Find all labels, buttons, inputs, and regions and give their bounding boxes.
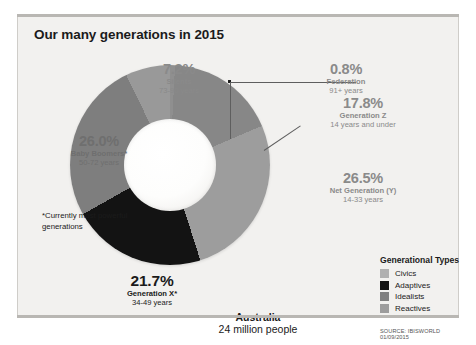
legend-item-reactives[interactable]: Reactives [380, 304, 476, 313]
label-baby-boomers: 26.0% Baby Boomers* 50-72 years [40, 133, 158, 168]
label-net-generation-y-age: 14-33 years [304, 196, 422, 205]
label-generation-x-age: 34-49 years [82, 299, 222, 308]
label-net-generation-y: 26.5% Net Generation (Y) 14-33 years [304, 170, 422, 205]
country-name: Australia [168, 311, 348, 323]
label-federation: 0.8% Federation 91+ years [298, 61, 394, 96]
legend: Generational Types Civics Adaptives Idea… [380, 255, 476, 315]
label-generation-z-age: 14 years and under [304, 121, 422, 130]
legend-item-civics[interactable]: Civics [380, 269, 476, 278]
chart-card: Our many generations in 2015 7.2% Silent… [17, 14, 459, 318]
label-generation-z: 17.8% Generation Z 14 years and under [304, 95, 422, 130]
page-title: Our many generations in 2015 [34, 27, 224, 42]
label-generation-x-pct: 21.7% [82, 272, 222, 290]
legend-swatch-adaptives [380, 281, 389, 290]
country-summary: Australia 24 million people [168, 311, 348, 335]
label-federation-pct: 0.8% [298, 61, 394, 78]
legend-label-idealists: Idealists [395, 292, 424, 301]
source-note: SOURCE: IBISWORLD 01/09/2015 [380, 328, 458, 340]
legend-item-adaptives[interactable]: Adaptives [380, 281, 476, 290]
federation-leader-line-vertical [230, 82, 231, 139]
label-generation-x: 21.7% Generation X* 34-49 years [82, 272, 222, 308]
country-population: 24 million people [168, 323, 348, 335]
label-silents-age: 73-90 years [136, 87, 222, 96]
label-silents-pct: 7.2% [136, 61, 222, 78]
legend-label-adaptives: Adaptives [395, 281, 430, 290]
label-generation-z-pct: 17.8% [304, 95, 422, 112]
legend-label-reactives: Reactives [395, 304, 430, 313]
label-baby-boomers-pct: 26.0% [40, 133, 158, 150]
footnote: *Currently most powerful generations [42, 211, 154, 232]
legend-swatch-civics [380, 269, 389, 278]
label-baby-boomers-age: 50-72 years [40, 159, 158, 168]
legend-swatch-idealists [380, 292, 389, 301]
label-silents: 7.2% Silents 73-90 years [136, 61, 222, 96]
label-net-generation-y-pct: 26.5% [304, 170, 422, 187]
legend-item-idealists[interactable]: Idealists [380, 292, 476, 301]
legend-title: Generational Types [380, 255, 476, 265]
infographic-root: Our many generations in 2015 7.2% Silent… [0, 0, 476, 345]
legend-swatch-reactives [380, 304, 389, 313]
legend-label-civics: Civics [395, 269, 416, 278]
